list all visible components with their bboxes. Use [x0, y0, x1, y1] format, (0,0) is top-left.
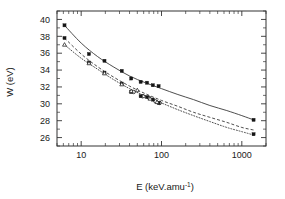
- x-tick-label: 100: [154, 150, 169, 160]
- plot-curves: [65, 25, 254, 135]
- data-point-filled-square: [151, 84, 154, 87]
- data-point-open-triangle: [135, 88, 139, 92]
- y-tick-label: 28: [40, 116, 50, 126]
- chart-figure: 1010010002628303234363840 E (keV.amu-1) …: [0, 0, 285, 199]
- data-point-filled-square: [63, 24, 66, 27]
- fit-curve-solid: [65, 25, 254, 120]
- data-point-open-triangle: [63, 43, 67, 47]
- data-point-filled-square: [252, 133, 255, 136]
- plot-axes: [57, 11, 266, 146]
- data-point-filled-square: [157, 85, 160, 88]
- data-point-filled-square: [103, 59, 106, 62]
- data-point-filled-square: [139, 80, 142, 83]
- data-point-open-triangle: [129, 89, 133, 93]
- fit-curve-dashed: [65, 38, 254, 130]
- axis-tick-labels: 1010010002628303234363840: [40, 15, 252, 160]
- data-point-filled-square: [252, 118, 255, 121]
- y-tick-label: 26: [40, 133, 50, 143]
- data-markers: [63, 24, 256, 136]
- fit-curve-dotted: [65, 45, 254, 135]
- data-point-filled-square: [145, 96, 148, 99]
- x-axis-title: E (keV.amu-1): [136, 181, 194, 192]
- data-point-filled-square: [63, 36, 66, 39]
- y-tick-label: 40: [40, 15, 50, 25]
- data-point-filled-square: [120, 69, 123, 72]
- x-tick-label: 1000: [232, 150, 252, 160]
- data-point-filled-square: [145, 81, 148, 84]
- data-point-filled-square: [130, 77, 133, 80]
- y-tick-label: 34: [40, 65, 50, 75]
- y-tick-label: 36: [40, 48, 50, 58]
- data-point-filled-square: [87, 52, 90, 55]
- y-tick-label: 30: [40, 99, 50, 109]
- y-tick-label: 32: [40, 82, 50, 92]
- y-axis-title: W (eV): [4, 67, 15, 97]
- y-tick-label: 38: [40, 32, 50, 42]
- scatter-plot-svg: 1010010002628303234363840 E (keV.amu-1) …: [0, 0, 285, 199]
- x-tick-label: 10: [76, 150, 86, 160]
